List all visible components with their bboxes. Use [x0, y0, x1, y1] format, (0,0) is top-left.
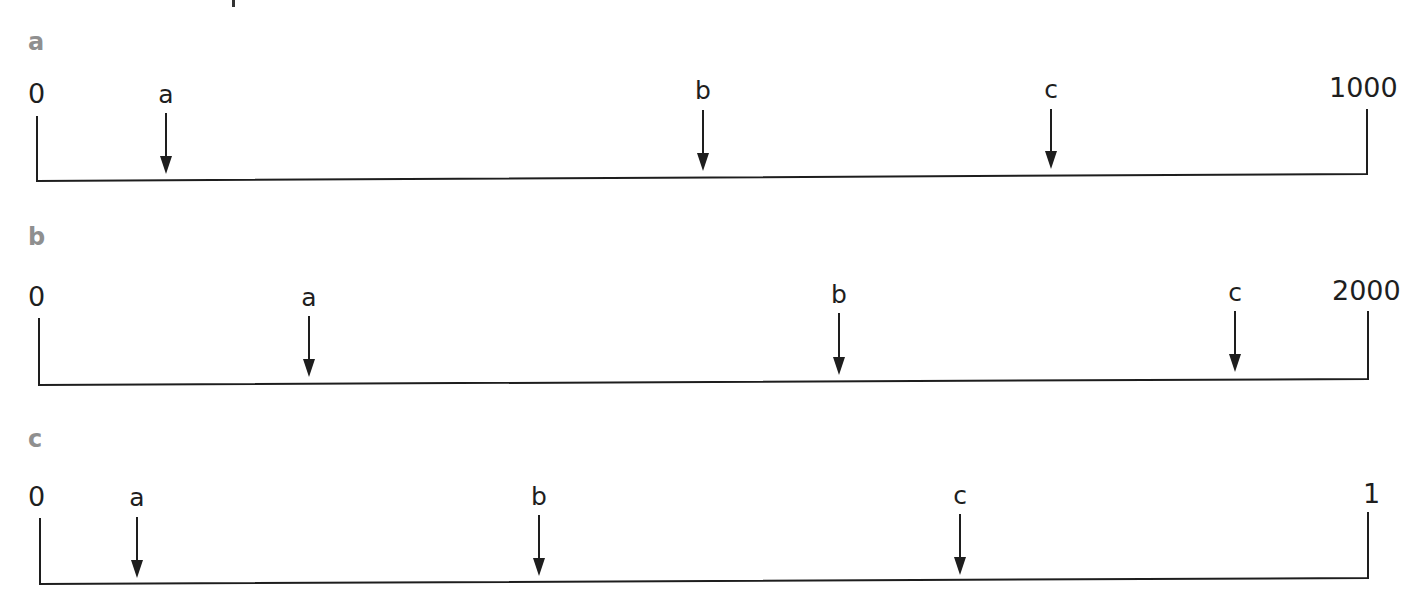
scale-start-label: 0: [28, 481, 45, 512]
marker-label: b: [531, 482, 547, 511]
marker-a: a: [158, 80, 173, 174]
marker-c: c: [1228, 278, 1242, 372]
scale-start-label: 0: [28, 281, 45, 312]
down-arrow-icon: [1229, 354, 1241, 372]
marker-label: a: [129, 483, 144, 512]
panel-c: c01abc: [28, 425, 1380, 584]
marker-b: b: [831, 280, 847, 375]
marker-label: b: [831, 280, 847, 309]
scale-end-label: 1000: [1329, 72, 1398, 103]
marker-c: c: [953, 481, 967, 575]
marker-a: a: [301, 283, 316, 377]
cropped-text-fragment: [232, 0, 235, 7]
marker-b: b: [695, 76, 711, 171]
number-line-axis: [39, 311, 1368, 385]
marker-label: a: [301, 283, 316, 312]
down-arrow-icon: [533, 558, 545, 576]
panel-label: b: [28, 223, 45, 251]
panel-label: a: [28, 28, 44, 56]
panel-label: c: [28, 425, 42, 453]
marker-c: c: [1044, 75, 1058, 169]
down-arrow-icon: [954, 557, 966, 575]
panel-a: a01000abc: [28, 28, 1398, 181]
number-line-axis: [40, 512, 1368, 584]
scale-end-label: 1: [1363, 478, 1380, 509]
down-arrow-icon: [303, 359, 315, 377]
down-arrow-icon: [1045, 151, 1057, 169]
marker-label: b: [695, 76, 711, 105]
marker-label: a: [158, 80, 173, 109]
scale-end-label: 2000: [1332, 275, 1401, 306]
marker-b: b: [531, 482, 547, 576]
marker-label: c: [953, 481, 967, 510]
marker-label: c: [1044, 75, 1058, 104]
panel-b: b02000abc: [28, 223, 1401, 385]
down-arrow-icon: [697, 153, 709, 171]
down-arrow-icon: [160, 156, 172, 174]
down-arrow-icon: [833, 357, 845, 375]
down-arrow-icon: [131, 560, 143, 578]
marker-a: a: [129, 483, 144, 578]
scale-start-label: 0: [28, 78, 45, 109]
number-line-diagram: a01000abcb02000abcc01abc: [0, 0, 1421, 612]
marker-label: c: [1228, 278, 1242, 307]
